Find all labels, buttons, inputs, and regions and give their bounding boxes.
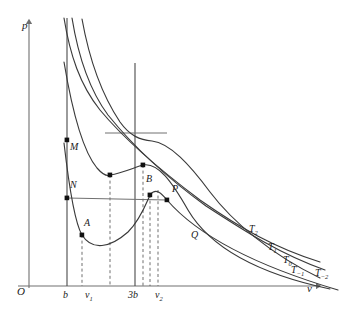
isotherm-curve-T2 [64,18,320,262]
isotherm-label-T1: T1 [268,242,277,255]
point-label-M: M [70,142,78,152]
marker-B [148,193,153,198]
isotherm-label-Tminus1: T−1 [291,265,304,278]
point-label-P: P [172,184,178,194]
tick-label-v2-sub: 2 [159,295,162,302]
origin-label: O [17,286,25,297]
tick-label-v1: v1 [85,290,93,303]
x-axis-label: v [307,283,312,294]
maxwell-equal-area-line [67,198,167,200]
tick-label-v2: v2 [155,290,163,303]
marker-min-t1 [108,173,113,178]
isotherm-label-T2-sub: 2 [255,229,258,236]
marker-P [165,198,170,203]
van-der-waals-figure: p v O b v1 3b v2 T2 T1 T0 T−1 T−2 M N A … [0,0,345,317]
tick-label-3b-text: 3b [128,289,138,300]
tick-label-b: b [63,290,68,303]
isotherm-label-Tminus2: T−2 [315,268,328,281]
isotherm-label-Tminus2-sub: −2 [321,273,329,280]
isotherm-label-T2: T2 [249,224,258,237]
tick-label-b-text: b [63,289,68,300]
point-label-A: A [84,218,90,228]
tick-label-3b: 3b [128,290,138,303]
point-label-Q: Q [191,230,198,240]
y-axis-label: p [22,20,28,31]
tick-label-v1-sub: 1 [89,295,92,302]
point-label-N: N [70,180,77,190]
isotherm-label-Tminus1-sub: −1 [297,270,305,277]
isotherm-label-T1-sub: 1 [274,247,277,254]
isotherm-curves [64,18,338,290]
marker-M [65,138,70,143]
point-label-B: B [146,174,152,184]
marker-A [80,233,85,238]
marker-N [65,196,70,201]
point-markers [65,138,170,238]
marker-max-t1 [141,163,146,168]
